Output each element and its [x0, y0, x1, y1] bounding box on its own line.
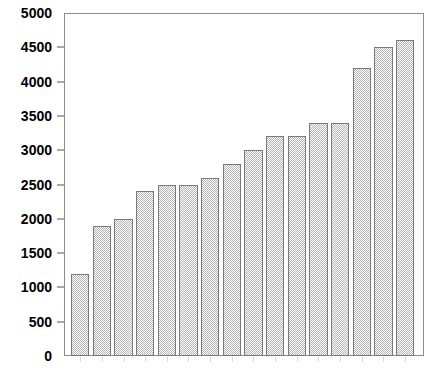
x-axis-tick-mark: [253, 357, 254, 362]
y-axis-tick-mark: [57, 184, 64, 185]
bar: [158, 185, 177, 357]
bar: [309, 123, 328, 356]
x-axis-tick-mark: [340, 357, 341, 362]
x-axis-tick-mark: [102, 357, 103, 362]
y-axis-tick-label: 500: [0, 315, 52, 329]
y-axis-tick-mark: [57, 253, 64, 254]
bar-chart: 0500100015002000250030003500400045005000: [0, 0, 433, 375]
bar: [288, 136, 307, 356]
x-axis-tick-mark: [124, 357, 125, 362]
x-axis-tick-mark: [210, 357, 211, 362]
y-axis-tick-label: 2000: [0, 212, 52, 226]
y-axis-tick-mark: [57, 321, 64, 322]
bar: [114, 219, 133, 356]
bar: [244, 150, 263, 356]
y-axis-tick-mark: [57, 150, 64, 151]
x-axis-tick-mark: [80, 357, 81, 362]
y-axis-tick-label: 4000: [0, 75, 52, 89]
y-axis-tick-mark: [57, 81, 64, 82]
x-axis-tick-mark: [383, 357, 384, 362]
x-axis-tick-mark: [297, 357, 298, 362]
bar: [93, 226, 112, 356]
y-axis-tick-label: 4500: [0, 40, 52, 54]
y-axis-tick-label: 1500: [0, 246, 52, 260]
x-axis-tick-mark: [167, 357, 168, 362]
y-axis-tick-label: 1000: [0, 280, 52, 294]
bar: [374, 47, 393, 356]
bar: [136, 191, 155, 356]
bar: [223, 164, 242, 356]
x-axis-tick-mark: [405, 357, 406, 362]
x-axis-tick-mark: [318, 357, 319, 362]
bar: [71, 274, 90, 356]
y-axis: 0500100015002000250030003500400045005000: [0, 0, 52, 375]
bar: [266, 136, 285, 356]
y-axis-tick-mark: [57, 115, 64, 116]
x-axis-tick-mark: [232, 357, 233, 362]
bar: [353, 68, 372, 356]
bar: [201, 178, 220, 356]
x-axis-tick-mark: [145, 357, 146, 362]
bar: [396, 40, 415, 356]
y-axis-tick-label: 0: [0, 349, 52, 363]
y-axis-tick-label: 5000: [0, 6, 52, 20]
x-axis-tick-mark: [188, 357, 189, 362]
bar: [331, 123, 350, 356]
bars-container: [64, 13, 424, 356]
x-axis-tick-mark: [362, 357, 363, 362]
y-axis-tick-label: 3000: [0, 143, 52, 157]
y-axis-tick-mark: [57, 287, 64, 288]
y-axis-tick-mark: [57, 218, 64, 219]
x-axis-tick-mark: [275, 357, 276, 362]
y-axis-tick-mark: [57, 47, 64, 48]
y-axis-tick-label: 2500: [0, 178, 52, 192]
y-axis-tick-label: 3500: [0, 109, 52, 123]
bar: [179, 185, 198, 357]
